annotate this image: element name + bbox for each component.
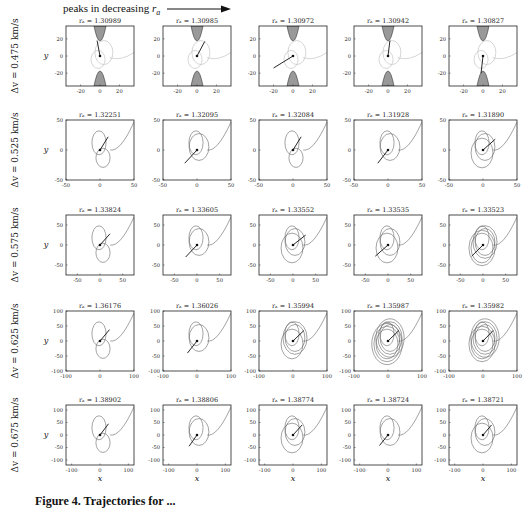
forbidden-region bbox=[287, 26, 299, 41]
svg-text:0: 0 bbox=[253, 432, 256, 438]
origin-point bbox=[482, 244, 485, 247]
svg-text:0: 0 bbox=[157, 147, 160, 153]
svg-text:0: 0 bbox=[386, 88, 389, 94]
svg-text:50: 50 bbox=[249, 419, 256, 425]
svg-text:-50: -50 bbox=[248, 353, 256, 359]
origin-point bbox=[387, 55, 390, 58]
svg-text:-20: -20 bbox=[248, 70, 256, 76]
svg-text:50: 50 bbox=[56, 323, 63, 329]
row-label: Δv = 0.575 km/s bbox=[10, 207, 20, 282]
svg-text:50: 50 bbox=[344, 323, 351, 329]
svg-text:-20: -20 bbox=[55, 70, 63, 76]
origin-point bbox=[482, 340, 485, 343]
velocity-vector bbox=[293, 425, 302, 435]
trajectory-panel: rₐ = 1.30989-20020-20020y bbox=[43, 17, 134, 94]
svg-text:-50: -50 bbox=[343, 177, 351, 183]
svg-text:100: 100 bbox=[129, 373, 139, 379]
svg-text:0: 0 bbox=[98, 373, 101, 379]
velocity-vector bbox=[187, 341, 197, 353]
trajectory-loop bbox=[281, 329, 303, 359]
panel-title: rₐ = 1.33824 bbox=[79, 206, 121, 214]
svg-text:0: 0 bbox=[98, 88, 101, 94]
escape-trajectory bbox=[398, 407, 422, 435]
svg-text:50: 50 bbox=[153, 323, 160, 329]
svg-text:-20: -20 bbox=[438, 70, 446, 76]
svg-text:0: 0 bbox=[157, 242, 160, 248]
svg-text:100: 100 bbox=[246, 308, 256, 314]
forbidden-region bbox=[94, 71, 106, 86]
forbidden-region bbox=[477, 26, 489, 41]
svg-text:50: 50 bbox=[419, 182, 426, 188]
origin-point bbox=[196, 340, 199, 343]
escape-trajectory bbox=[493, 122, 517, 150]
svg-text:-20: -20 bbox=[343, 70, 351, 76]
row-label: Δv = 0.475 km/s bbox=[10, 18, 20, 93]
panel-title: rₐ = 1.33535 bbox=[367, 206, 409, 214]
svg-text:0: 0 bbox=[253, 53, 256, 59]
panel-title: rₐ = 1.35987 bbox=[367, 302, 409, 310]
svg-text:0: 0 bbox=[195, 277, 198, 283]
svg-text:100: 100 bbox=[53, 308, 63, 314]
forbidden-region bbox=[94, 26, 106, 41]
forbidden-region bbox=[382, 71, 394, 86]
panel-title: rₐ = 1.30985 bbox=[176, 17, 218, 25]
svg-text:100: 100 bbox=[316, 467, 326, 473]
svg-text:0: 0 bbox=[348, 242, 351, 248]
panel-title: rₐ = 1.38721 bbox=[462, 396, 504, 404]
origin-point bbox=[387, 244, 390, 247]
svg-text:0: 0 bbox=[481, 182, 484, 188]
panel-title: rₐ = 1.32095 bbox=[176, 111, 218, 119]
svg-text:-100: -100 bbox=[157, 373, 169, 379]
x-axis-label: x bbox=[291, 474, 296, 483]
escape-trajectory bbox=[207, 217, 231, 245]
svg-text:-100: -100 bbox=[449, 467, 461, 473]
panel-title: rₐ = 1.31928 bbox=[367, 111, 409, 119]
svg-text:100: 100 bbox=[150, 308, 160, 314]
y-axis-label: y bbox=[43, 145, 49, 154]
trajectory-loop bbox=[471, 138, 493, 168]
svg-text:-100: -100 bbox=[443, 373, 455, 379]
panel-title: rₐ = 1.32084 bbox=[272, 111, 314, 119]
svg-text:50: 50 bbox=[249, 222, 256, 228]
escape-trajectory bbox=[398, 122, 422, 150]
panel-title: rₐ = 1.35982 bbox=[462, 302, 504, 310]
svg-text:0: 0 bbox=[195, 88, 198, 94]
trajectory-panel: rₐ = 1.35982-1000100-100-50050100 bbox=[434, 302, 522, 379]
svg-text:-100: -100 bbox=[51, 457, 63, 463]
x-axis-label: x bbox=[481, 474, 486, 483]
trajectory-loop bbox=[283, 322, 307, 355]
svg-text:-50: -50 bbox=[55, 177, 63, 183]
trajectory-panel: rₐ = 1.33824-50050-50050y bbox=[43, 206, 134, 283]
trajectory-panel: rₐ = 1.32095-50050-50050 bbox=[152, 111, 235, 188]
svg-text:-20: -20 bbox=[76, 88, 84, 94]
panel-title: rₐ = 1.36026 bbox=[176, 302, 218, 310]
svg-text:100: 100 bbox=[341, 407, 351, 413]
panel-title: rₐ = 1.38806 bbox=[176, 396, 218, 404]
svg-text:0: 0 bbox=[253, 338, 256, 344]
trajectory-panel: rₐ = 1.31928-50050-50050 bbox=[343, 111, 426, 188]
svg-text:50: 50 bbox=[228, 182, 235, 188]
trajectory-panel: rₐ = 1.30942-20020-20020 bbox=[343, 17, 422, 94]
svg-text:20: 20 bbox=[56, 36, 63, 42]
svg-text:0: 0 bbox=[60, 432, 63, 438]
svg-text:-50: -50 bbox=[152, 262, 160, 268]
svg-text:0: 0 bbox=[348, 432, 351, 438]
forbidden-region bbox=[191, 71, 203, 86]
trajectory-panel: rₐ = 1.38902-1000100-100-50050100yx bbox=[43, 396, 134, 483]
svg-text:-100: -100 bbox=[259, 467, 271, 473]
svg-text:50: 50 bbox=[344, 222, 351, 228]
trajectory-panel: rₐ = 1.30827-20020-20020 bbox=[438, 17, 517, 94]
panel-title: rₐ = 1.30827 bbox=[462, 17, 504, 25]
escape-trajectory bbox=[303, 217, 327, 245]
svg-text:-50: -50 bbox=[438, 262, 446, 268]
origin-point bbox=[482, 55, 485, 58]
svg-text:50: 50 bbox=[56, 222, 63, 228]
svg-text:0: 0 bbox=[291, 182, 294, 188]
svg-text:-100: -100 bbox=[339, 457, 351, 463]
svg-text:20: 20 bbox=[439, 36, 446, 42]
svg-text:0: 0 bbox=[348, 53, 351, 59]
origin-point bbox=[292, 55, 295, 58]
svg-text:50: 50 bbox=[153, 117, 160, 123]
svg-text:0: 0 bbox=[195, 467, 198, 473]
svg-text:-50: -50 bbox=[248, 177, 256, 183]
